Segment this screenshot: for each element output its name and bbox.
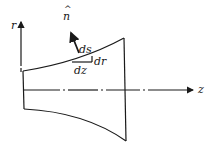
horn-diagram: r z n ^ ds dr dz xyxy=(0,0,212,146)
r-axis-label: r xyxy=(11,19,17,32)
normal-hat: ^ xyxy=(64,4,72,14)
normal-vector-arrow xyxy=(71,33,79,53)
z-axis-label: z xyxy=(197,83,204,96)
bottom-profile-curve xyxy=(24,109,126,141)
ds-label: ds xyxy=(79,43,92,56)
dr-label: dr xyxy=(94,55,107,68)
dz-label: dz xyxy=(74,64,87,77)
